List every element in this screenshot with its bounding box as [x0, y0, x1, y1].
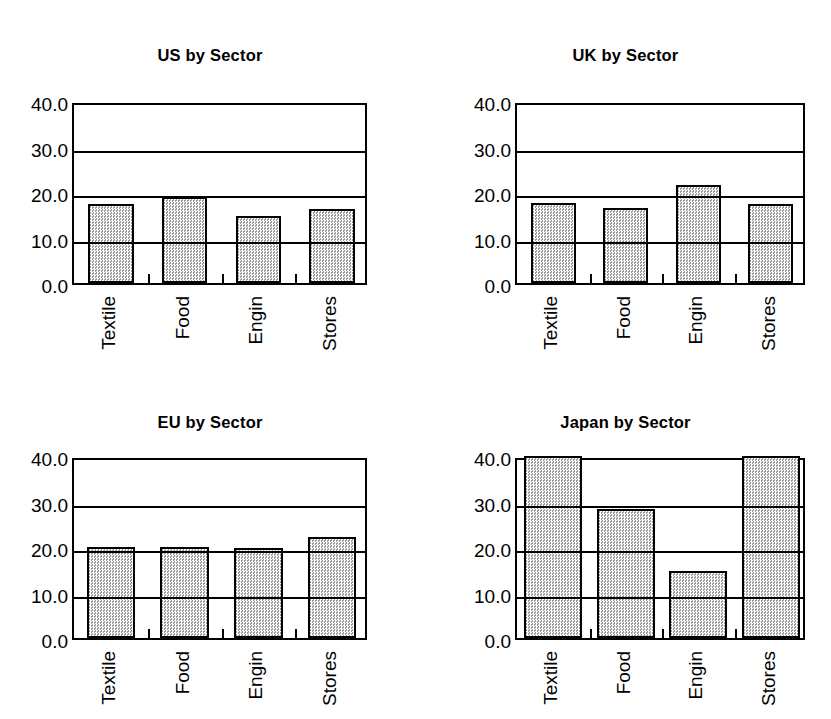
gridline: [74, 506, 365, 508]
x-axis-category-label: Textile: [540, 296, 562, 350]
x-axis-tick: [590, 274, 592, 283]
gridline: [74, 196, 365, 198]
bar: [676, 185, 721, 283]
y-axis-tick-label: 30.0: [474, 140, 511, 162]
bar: [234, 548, 283, 638]
bar: [524, 456, 582, 638]
bar: [309, 209, 355, 283]
plot-area-japan: 40.030.020.010.00.0: [515, 458, 805, 640]
x-axis-category-label: Textile: [98, 296, 120, 350]
y-axis-tick-label: 0.0: [485, 276, 511, 298]
x-axis-category-label: Stores: [319, 651, 341, 706]
y-axis-tick-label: 40.0: [474, 449, 511, 471]
x-axis-category-label: Food: [172, 651, 194, 694]
x-axis-tick: [148, 274, 150, 283]
gridline: [74, 597, 365, 599]
x-axis-category-label: Stores: [758, 651, 780, 706]
chart-title-uk: UK by Sector: [420, 46, 831, 65]
x-axis-category-label: Stores: [758, 296, 780, 351]
y-axis-tick-label: 20.0: [474, 185, 511, 207]
bar: [742, 456, 800, 638]
bar-series-eu: [74, 460, 365, 638]
x-axis-category-label: Food: [613, 296, 635, 339]
x-axis-category-label: Stores: [319, 296, 341, 351]
bar-series-uk: [517, 105, 803, 283]
bar-series-japan: [517, 460, 803, 638]
bar: [236, 216, 282, 283]
gridline: [74, 242, 365, 244]
y-axis-tick-label: 0.0: [42, 276, 68, 298]
x-axis-category-label: Food: [613, 651, 635, 694]
x-axis-tick: [148, 629, 150, 638]
chart-panel-us: US by Sector 40.030.020.010.00.0 Textile…: [0, 0, 420, 395]
x-axis-tick: [735, 274, 737, 283]
gridline: [74, 551, 365, 553]
chart-title-eu: EU by Sector: [0, 413, 420, 432]
plot-area-eu: 40.030.020.010.00.0: [72, 458, 367, 640]
bar: [160, 547, 209, 638]
x-axis-category-label: Engin: [685, 296, 707, 345]
y-axis-tick-label: 20.0: [474, 540, 511, 562]
gridline: [517, 196, 803, 198]
x-axis-tick: [735, 629, 737, 638]
plot-area-us: 40.030.020.010.00.0: [72, 103, 367, 285]
y-axis-tick-label: 30.0: [31, 495, 68, 517]
x-axis-tick: [295, 274, 297, 283]
chart-panel-eu: EU by Sector 40.030.020.010.00.0 Textile…: [0, 395, 420, 719]
y-axis-tick-label: 20.0: [31, 185, 68, 207]
gridline: [517, 551, 803, 553]
x-axis-tick: [222, 629, 224, 638]
bar: [669, 571, 727, 638]
y-axis-tick-label: 40.0: [31, 449, 68, 471]
x-axis-category-label: Food: [172, 296, 194, 339]
y-axis-tick-label: 10.0: [474, 586, 511, 608]
chart-grid: US by Sector 40.030.020.010.00.0 Textile…: [0, 0, 831, 719]
gridline: [517, 242, 803, 244]
x-axis-category-label: Engin: [245, 296, 267, 345]
plot-area-uk: 40.030.020.010.00.0: [515, 103, 805, 285]
chart-title-us: US by Sector: [0, 46, 420, 65]
y-axis-tick-label: 0.0: [42, 631, 68, 653]
y-axis-tick-label: 40.0: [31, 94, 68, 116]
x-axis-tick: [662, 629, 664, 638]
chart-title-japan: Japan by Sector: [420, 413, 831, 432]
x-axis-tick: [662, 274, 664, 283]
x-axis-category-label: Engin: [245, 651, 267, 700]
gridline: [74, 151, 365, 153]
x-axis-category-label: Textile: [98, 651, 120, 705]
y-axis-tick-label: 20.0: [31, 540, 68, 562]
x-axis-tick: [590, 629, 592, 638]
y-axis-tick-label: 10.0: [31, 231, 68, 253]
bar: [748, 204, 793, 283]
y-axis-tick-label: 0.0: [485, 631, 511, 653]
gridline: [517, 597, 803, 599]
chart-panel-japan: Japan by Sector 40.030.020.010.00.0 Text…: [420, 395, 831, 719]
x-axis-tick: [295, 629, 297, 638]
chart-panel-uk: UK by Sector 40.030.020.010.00.0 Textile…: [420, 0, 831, 395]
bar-series-us: [74, 105, 365, 283]
bar: [162, 197, 208, 283]
gridline: [517, 506, 803, 508]
x-axis-tick: [222, 274, 224, 283]
x-axis-category-label: Engin: [685, 651, 707, 700]
bar: [603, 208, 648, 283]
y-axis-tick-label: 40.0: [474, 94, 511, 116]
y-axis-tick-label: 30.0: [474, 495, 511, 517]
y-axis-tick-label: 10.0: [474, 231, 511, 253]
y-axis-tick-label: 10.0: [31, 586, 68, 608]
y-axis-tick-label: 30.0: [31, 140, 68, 162]
bar: [597, 509, 655, 638]
bar: [87, 547, 136, 638]
gridline: [517, 151, 803, 153]
x-axis-category-label: Textile: [540, 651, 562, 705]
